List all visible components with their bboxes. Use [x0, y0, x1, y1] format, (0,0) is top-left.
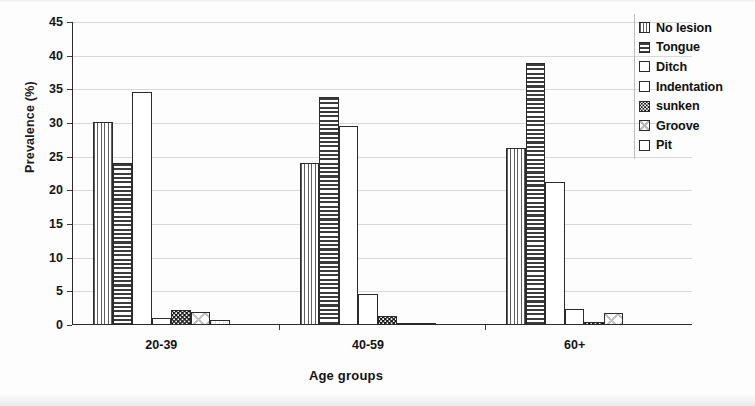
legend-swatch-icon — [639, 140, 650, 151]
legend-item[interactable]: Groove — [639, 116, 755, 136]
legend-item-label: Pit — [656, 138, 672, 152]
legend-swatch-icon — [639, 22, 650, 33]
y-tick-label: 25 — [49, 150, 63, 164]
legend-item[interactable]: Tongue — [639, 38, 755, 58]
y-tick-label: 40 — [49, 49, 63, 63]
legend-item-label: Tongue — [656, 40, 700, 54]
legend-swatch-icon — [639, 120, 650, 131]
legend-item-label: sunken — [656, 99, 700, 113]
y-axis-title: Prevalence (%) — [23, 37, 37, 217]
plot-frame — [72, 22, 692, 325]
y-tick-label: 10 — [49, 251, 63, 265]
legend-item-label: Groove — [656, 119, 700, 133]
legend-item[interactable]: sunken — [639, 96, 755, 116]
group-separator — [485, 325, 486, 330]
legend-swatch-icon — [639, 101, 650, 112]
plot-area: 051015202530354045 — [72, 22, 692, 325]
x-tick-label: 20-39 — [145, 338, 177, 352]
legend-item-label: No lesion — [656, 21, 712, 35]
legend-item-label: Indentation — [656, 80, 723, 94]
legend-item[interactable]: Ditch — [639, 57, 755, 77]
group-separator — [279, 325, 280, 330]
x-tick-label: 40-59 — [352, 338, 384, 352]
y-tick-label: 30 — [49, 116, 63, 130]
y-tick-label: 0 — [56, 318, 63, 332]
y-tick-label: 15 — [49, 217, 63, 231]
x-tick-label: 60+ — [564, 338, 585, 352]
legend-swatch-icon — [639, 42, 650, 53]
legend: No lesionTongueDitchIndentationsunkenGro… — [634, 14, 755, 159]
y-tick-label: 20 — [49, 183, 63, 197]
legend-item-label: Ditch — [656, 60, 687, 74]
legend-item[interactable]: Indentation — [639, 77, 755, 97]
legend-item[interactable]: No lesion — [639, 18, 755, 38]
y-tick-label: 35 — [49, 82, 63, 96]
legend-swatch-icon — [639, 81, 650, 92]
scan-edge-bottom — [0, 392, 755, 406]
x-axis-title: Age groups — [0, 368, 692, 383]
y-tick-label: 5 — [56, 284, 63, 298]
y-tick-mark — [67, 325, 72, 326]
y-tick-label: 45 — [49, 15, 63, 29]
scan-edge-top — [0, 0, 755, 3]
bar-chart-figure: Prevalence (%) 051015202530354045 20-394… — [0, 0, 755, 406]
legend-swatch-icon — [639, 61, 650, 72]
legend-item[interactable]: Pit — [639, 136, 755, 156]
